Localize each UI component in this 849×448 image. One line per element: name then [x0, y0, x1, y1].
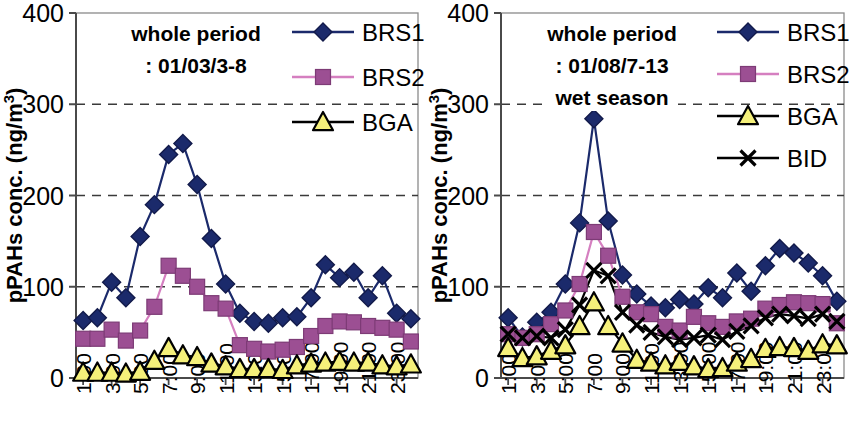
- annotation-line-1: whole period: [546, 22, 677, 45]
- svg-text:pPAHs conc. (ng/m3): pPAHs conc. (ng/m3): [0, 88, 27, 304]
- y-tick-label: 0: [50, 364, 64, 392]
- square-marker: [389, 322, 404, 337]
- square-marker: [346, 315, 361, 330]
- annotation-line-1: whole period: [130, 22, 261, 45]
- square-marker: [332, 314, 347, 329]
- y-axis-title: pPAHs conc. (ng/m3): [425, 88, 452, 304]
- y-tick-label: 300: [22, 90, 64, 118]
- square-marker: [586, 225, 601, 240]
- square-marker: [104, 322, 119, 337]
- chart-panel-left: 01002003004001:003:005:007:009:0011:0013…: [0, 0, 424, 448]
- annotation-line-3: wet season: [554, 86, 668, 109]
- square-marker: [304, 329, 319, 344]
- right-chart-svg: 01002003004001:003:005:007:009:0011:0013…: [425, 0, 849, 448]
- square-marker: [318, 318, 333, 333]
- legend-label: BID: [787, 145, 827, 172]
- square-marker: [232, 338, 247, 353]
- square-marker: [261, 344, 276, 359]
- square-marker: [375, 320, 390, 335]
- square-marker: [544, 317, 559, 332]
- legend-label: BRS1: [362, 19, 424, 46]
- y-tick-label: 200: [447, 182, 489, 210]
- annotation-line-2: : 01/08/7-13: [555, 54, 668, 77]
- square-marker: [90, 331, 105, 346]
- y-axis-title: pPAHs conc. (ng/m3): [0, 88, 27, 304]
- y-tick-label: 100: [22, 273, 64, 301]
- annotation-line-2: : 01/03/3-8: [145, 54, 247, 77]
- square-marker: [801, 296, 816, 311]
- square-marker: [218, 301, 233, 316]
- square-marker: [161, 258, 176, 273]
- square-marker: [118, 333, 133, 348]
- chart-panel-right: 01002003004001:003:005:007:009:0011:0013…: [425, 0, 849, 448]
- square-marker: [275, 342, 290, 357]
- y-tick-label: 100: [447, 273, 489, 301]
- square-marker: [76, 331, 91, 346]
- legend-label: BRS2: [362, 64, 424, 91]
- square-marker: [175, 268, 190, 283]
- square-marker: [601, 248, 616, 263]
- square-marker: [403, 334, 418, 349]
- square-marker: [316, 70, 331, 85]
- square-marker: [133, 323, 148, 338]
- square-marker: [247, 341, 262, 356]
- square-marker: [204, 296, 219, 311]
- legend-label: BGA: [787, 103, 838, 130]
- y-tick-label: 400: [22, 0, 64, 27]
- square-marker: [289, 339, 304, 354]
- square-marker: [147, 299, 162, 314]
- square-marker: [615, 289, 630, 304]
- x-tick-label: 7:00: [583, 353, 606, 394]
- square-marker: [361, 318, 376, 333]
- square-marker: [715, 319, 730, 334]
- legend-label: BRS2: [787, 61, 849, 88]
- y-tick-label: 400: [447, 0, 489, 27]
- square-marker: [741, 67, 756, 82]
- square-marker: [786, 295, 801, 310]
- square-marker: [572, 277, 587, 292]
- square-marker: [190, 279, 205, 294]
- square-marker: [644, 307, 659, 322]
- square-marker: [686, 309, 701, 324]
- figure-root: 01002003004001:003:005:007:009:0011:0013…: [0, 0, 849, 448]
- legend-label: BGA: [362, 109, 413, 136]
- square-marker: [629, 305, 644, 320]
- y-tick-label: 200: [22, 182, 64, 210]
- square-marker: [558, 303, 573, 318]
- y-tick-label: 300: [447, 90, 489, 118]
- y-tick-label: 0: [475, 364, 489, 392]
- legend-label: BRS1: [787, 19, 849, 46]
- left-chart-svg: 01002003004001:003:005:007:009:0011:0013…: [0, 0, 424, 448]
- svg-text:pPAHs conc. (ng/m3): pPAHs conc. (ng/m3): [425, 88, 452, 304]
